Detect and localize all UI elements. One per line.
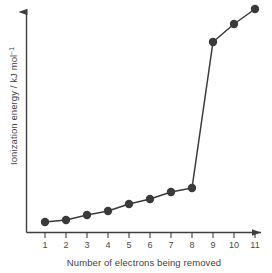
data-point-7 — [167, 188, 175, 196]
data-point-4 — [104, 207, 112, 215]
data-point-10 — [230, 20, 238, 28]
data-point-3 — [83, 211, 91, 219]
x-tick-label-4: 4 — [105, 240, 110, 250]
x-tick-label-8: 8 — [189, 240, 194, 250]
x-axis-tick-labels: 1 2 3 4 5 6 7 8 9 10 11 — [42, 240, 259, 250]
x-tick-label-9: 9 — [210, 240, 215, 250]
data-markers — [41, 5, 259, 226]
data-point-5 — [125, 200, 133, 208]
data-line — [45, 9, 255, 222]
data-point-8 — [188, 184, 196, 192]
data-point-1 — [41, 218, 49, 226]
x-axis-title: Number of electrons being removed — [67, 257, 221, 268]
data-point-2 — [62, 216, 70, 224]
x-tick-label-10: 10 — [229, 240, 239, 250]
x-tick-label-6: 6 — [147, 240, 152, 250]
chart-canvas: 1 2 3 4 5 6 7 8 9 10 11 — [0, 0, 272, 273]
x-tick-label-2: 2 — [63, 240, 68, 250]
x-tick-label-7: 7 — [168, 240, 173, 250]
y-axis-title: Ionization energy / kJ mol−1 — [8, 47, 19, 165]
x-tick-label-11: 11 — [250, 240, 259, 250]
data-point-6 — [146, 195, 154, 203]
x-tick-label-5: 5 — [126, 240, 131, 250]
x-tick-label-3: 3 — [84, 240, 89, 250]
y-axis-title-text: Ionization energy / kJ mol — [8, 55, 19, 165]
x-tick-label-1: 1 — [42, 240, 47, 250]
y-axis-title-superscript: −1 — [8, 47, 15, 55]
x-axis-ticks — [45, 233, 255, 239]
data-point-9 — [209, 38, 217, 46]
data-point-11 — [251, 5, 259, 13]
ionization-energy-chart: 1 2 3 4 5 6 7 8 9 10 11 — [0, 0, 272, 273]
